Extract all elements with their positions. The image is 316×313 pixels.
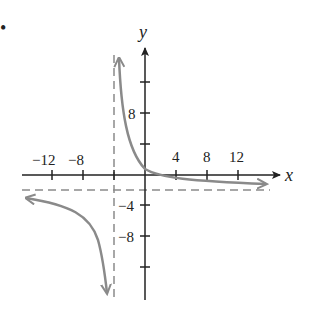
x-tick-label-minus-8: −8 [68,152,84,168]
y-tick-label-minus-4: −4 [118,198,134,214]
y-tick-label-8: 8 [128,106,136,122]
x-tick-label-minus-12: −12 [32,152,55,168]
y-tick-label-minus-8: −8 [118,229,134,245]
hyperbola-chart: • −12 −8 4 8 12 8 −4 −8 x y [0,0,316,313]
y-axis-label: y [137,22,147,42]
problem-bullet: • [0,18,6,38]
x-axis-label: x [284,165,293,185]
x-tick-label-4: 4 [172,149,180,165]
curve-left-branch [26,198,107,293]
x-tick-label-8: 8 [203,149,211,165]
curve-right-branch [119,58,266,184]
x-tick-label-12: 12 [229,149,244,165]
